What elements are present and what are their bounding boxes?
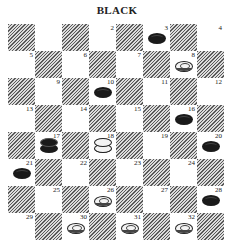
hatched-square: [197, 105, 224, 132]
hatched-square: [89, 105, 116, 132]
hatched-square: [8, 186, 35, 213]
hatched-square: [170, 24, 197, 51]
square-number: 20: [215, 132, 222, 140]
square-number: 14: [80, 105, 87, 113]
hatched-square: [116, 132, 143, 159]
black-man-piece-icon[interactable]: [175, 114, 193, 125]
black-man-piece-icon[interactable]: [94, 87, 112, 98]
square-number: 25: [53, 186, 60, 194]
square-31[interactable]: 31: [116, 213, 143, 240]
hatched-square: [35, 159, 62, 186]
square-16[interactable]: 16: [170, 105, 197, 132]
square-number: 29: [26, 213, 33, 221]
square-27[interactable]: 27: [143, 186, 170, 213]
hatched-square: [143, 51, 170, 78]
square-number: 10: [107, 78, 114, 86]
checkers-board: 2345678910111213141516171819202122232425…: [8, 24, 224, 240]
hatched-square: [170, 78, 197, 105]
hatched-square: [116, 186, 143, 213]
black-man-piece-icon[interactable]: [202, 141, 220, 152]
black-king-piece-icon[interactable]: [40, 138, 58, 154]
square-number: 15: [134, 105, 141, 113]
black-man-piece-icon[interactable]: [148, 33, 166, 44]
square-number: 11: [161, 78, 168, 86]
hatched-square: [62, 132, 89, 159]
white-king-piece-icon[interactable]: [94, 138, 112, 154]
white-man-piece-icon[interactable]: [175, 223, 193, 234]
square-number: 12: [215, 78, 222, 86]
square-3[interactable]: 3: [143, 24, 170, 51]
square-8[interactable]: 8: [170, 51, 197, 78]
square-13[interactable]: 13: [8, 105, 35, 132]
square-5[interactable]: 5: [8, 51, 35, 78]
square-number: 23: [134, 159, 141, 167]
square-number: 8: [192, 51, 196, 59]
square-28[interactable]: 28: [197, 186, 224, 213]
square-6[interactable]: 6: [62, 51, 89, 78]
square-number: 5: [30, 51, 34, 59]
hatched-square: [8, 78, 35, 105]
square-21[interactable]: 21: [8, 159, 35, 186]
square-17[interactable]: 17: [35, 132, 62, 159]
square-20[interactable]: 20: [197, 132, 224, 159]
white-man-piece-icon[interactable]: [175, 61, 193, 72]
square-number: 27: [161, 186, 168, 194]
square-10[interactable]: 10: [89, 78, 116, 105]
square-9[interactable]: 9: [35, 78, 62, 105]
square-number: 28: [215, 186, 222, 194]
square-19[interactable]: 19: [143, 132, 170, 159]
hatched-square: [8, 132, 35, 159]
hatched-square: [143, 159, 170, 186]
square-12[interactable]: 12: [197, 78, 224, 105]
hatched-square: [35, 51, 62, 78]
hatched-square: [89, 51, 116, 78]
hatched-square: [35, 105, 62, 132]
square-24[interactable]: 24: [170, 159, 197, 186]
hatched-square: [197, 213, 224, 240]
square-number: 26: [107, 186, 114, 194]
square-25[interactable]: 25: [35, 186, 62, 213]
hatched-square: [8, 24, 35, 51]
square-2[interactable]: 2: [89, 24, 116, 51]
hatched-square: [170, 132, 197, 159]
square-22[interactable]: 22: [62, 159, 89, 186]
square-32[interactable]: 32: [170, 213, 197, 240]
square-number: 7: [138, 51, 142, 59]
hatched-square: [143, 213, 170, 240]
square-number: 4: [219, 24, 223, 32]
square-number: 32: [188, 213, 195, 221]
square-14[interactable]: 14: [62, 105, 89, 132]
square-30[interactable]: 30: [62, 213, 89, 240]
hatched-square: [116, 24, 143, 51]
black-man-piece-icon[interactable]: [13, 168, 31, 179]
hatched-square: [89, 159, 116, 186]
square-number: 6: [84, 51, 88, 59]
square-number: 21: [26, 159, 33, 167]
square-15[interactable]: 15: [116, 105, 143, 132]
hatched-square: [197, 51, 224, 78]
board-title: BLACK: [0, 4, 234, 16]
square-number: 24: [188, 159, 195, 167]
square-11[interactable]: 11: [143, 78, 170, 105]
hatched-square: [62, 186, 89, 213]
square-26[interactable]: 26: [89, 186, 116, 213]
hatched-square: [170, 186, 197, 213]
white-man-piece-icon[interactable]: [67, 223, 85, 234]
black-man-piece-icon[interactable]: [202, 195, 220, 206]
square-23[interactable]: 23: [116, 159, 143, 186]
square-29[interactable]: 29: [8, 213, 35, 240]
white-man-piece-icon[interactable]: [121, 223, 139, 234]
hatched-square: [143, 105, 170, 132]
square-number: 13: [26, 105, 33, 113]
hatched-square: [116, 78, 143, 105]
square-number: 9: [57, 78, 61, 86]
hatched-square: [89, 213, 116, 240]
square-number: 30: [80, 213, 87, 221]
square-7[interactable]: 7: [116, 51, 143, 78]
square-18[interactable]: 18: [89, 132, 116, 159]
square-number: 2: [111, 24, 115, 32]
square-1[interactable]: [35, 24, 62, 51]
square-4[interactable]: 4: [197, 24, 224, 51]
hatched-square: [35, 213, 62, 240]
white-man-piece-icon[interactable]: [94, 196, 112, 207]
